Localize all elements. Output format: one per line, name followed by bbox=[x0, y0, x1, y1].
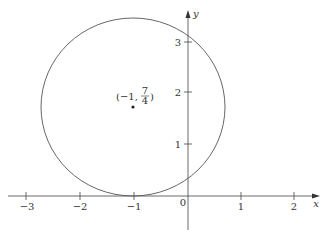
y-tick-label: 3 bbox=[175, 37, 181, 48]
x-tick-label: −3 bbox=[20, 201, 35, 212]
y-tick-label: 2 bbox=[175, 87, 181, 98]
y-axis-arrow-icon bbox=[186, 10, 191, 18]
x-tick-label: 2 bbox=[291, 201, 297, 212]
center-label-prefix: (−1, bbox=[116, 91, 138, 102]
center-label-denominator: 4 bbox=[142, 95, 148, 106]
center-label-suffix: ) bbox=[150, 91, 154, 102]
y-tick-label: 1 bbox=[175, 139, 181, 150]
center-point bbox=[131, 105, 134, 108]
x-axis-label: x bbox=[313, 198, 319, 209]
origin-label: 0 bbox=[180, 197, 186, 208]
x-tick-label: −1 bbox=[127, 201, 142, 212]
x-tick-label: 1 bbox=[238, 201, 244, 212]
circle-plot: −3 −2 −1 0 1 2 x 1 2 3 y (−1, 7 4 ) bbox=[0, 0, 328, 236]
center-annotation: (−1, 7 4 ) bbox=[116, 85, 154, 106]
x-tick-label: −2 bbox=[73, 201, 88, 212]
y-axis-label: y bbox=[192, 8, 199, 19]
